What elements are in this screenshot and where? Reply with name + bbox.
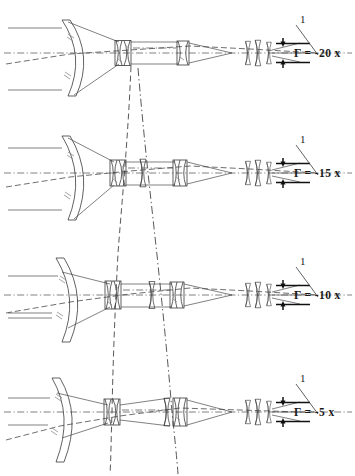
magnification-label: Γ = -5 x [294, 406, 335, 418]
callout-number: 1 [300, 133, 306, 145]
callout-number: 1 [300, 255, 306, 267]
optical-diagram: 1 Γ = -20 x [0, 0, 355, 476]
callout-number: 1 [300, 13, 306, 25]
magnification-label: Γ = -20 x [294, 47, 341, 59]
magnification-label: Γ = -15 x [294, 167, 341, 179]
callout-number: 1 [300, 372, 306, 384]
figure-background [0, 0, 355, 476]
magnification-label: Γ = -10 x [294, 289, 341, 301]
